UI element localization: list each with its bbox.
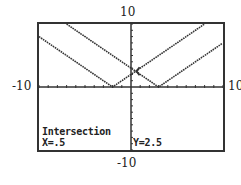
intersection-title: Intersection (42, 127, 111, 137)
graph-plot (0, 0, 241, 185)
intersection-x-value: X=.5 (42, 138, 65, 148)
intersection-y-value: Y=2.5 (133, 138, 162, 148)
intersection-cursor-icon (137, 67, 140, 75)
function-curve (39, 24, 205, 87)
function-curve (67, 24, 223, 87)
